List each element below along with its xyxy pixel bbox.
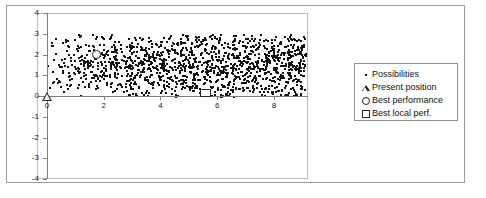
legend-label: Present position bbox=[372, 83, 437, 92]
legend-label: Best performance bbox=[372, 96, 443, 105]
legend-item-possibilities: Possibilities bbox=[359, 68, 457, 81]
legend-item-best-performance: Best performance bbox=[359, 94, 457, 107]
legend-box: Possibilities Present position Best perf… bbox=[354, 63, 458, 121]
best-local-perf-marker bbox=[200, 89, 211, 97]
legend-item-best-local-perf: Best local perf. bbox=[359, 107, 457, 120]
special-markers-layer bbox=[37, 13, 308, 179]
dot-icon bbox=[359, 74, 372, 76]
legend-label: Possibilities bbox=[372, 70, 419, 79]
present-position-marker bbox=[42, 92, 52, 101]
square-outline-icon bbox=[359, 110, 372, 118]
y-tick bbox=[43, 179, 47, 180]
best-performance-marker bbox=[92, 50, 101, 59]
triangle-outline-icon bbox=[359, 85, 372, 91]
plot-area: 43210-1-2-3-402468 bbox=[37, 13, 308, 179]
legend-item-present-position: Present position bbox=[359, 81, 457, 94]
circle-outline-icon bbox=[359, 97, 372, 105]
legend-label: Best local perf. bbox=[372, 109, 432, 118]
figure-container: 43210-1-2-3-402468 Possibilities Present… bbox=[6, 5, 465, 183]
